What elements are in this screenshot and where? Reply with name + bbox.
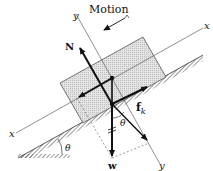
center-of-mass-dot bbox=[110, 76, 114, 80]
x-axis bbox=[16, 28, 203, 133]
inclined-plane-diagram: Motion y y x x N fk w θ θ bbox=[0, 0, 213, 171]
y-axis-top-label: y bbox=[72, 10, 79, 21]
x-axis-right-label: x bbox=[204, 20, 210, 31]
motion-arrow bbox=[104, 15, 129, 30]
y-axis-bottom-label: y bbox=[158, 160, 165, 171]
contact-point-dot bbox=[110, 102, 114, 106]
x-axis-left-label: x bbox=[9, 128, 15, 139]
theta-incline-label: θ bbox=[65, 143, 71, 153]
motion-label: Motion bbox=[89, 3, 129, 16]
friction-force-label: fk bbox=[136, 101, 146, 116]
normal-force-label: N bbox=[65, 41, 74, 52]
theta-weight-label: θ bbox=[120, 118, 126, 128]
weight-label: w bbox=[107, 160, 117, 171]
